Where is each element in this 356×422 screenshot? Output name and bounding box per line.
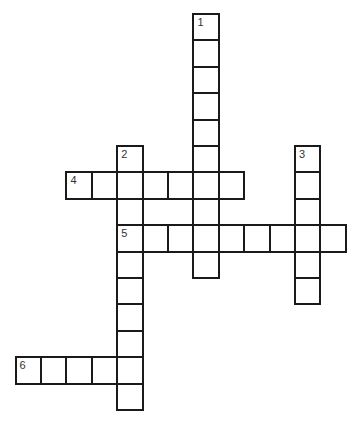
crossword-cell[interactable]: [167, 171, 194, 199]
crossword-cell[interactable]: [142, 224, 169, 252]
crossword-cell[interactable]: [192, 145, 219, 173]
crossword-cell[interactable]: [192, 39, 219, 67]
crossword-cell[interactable]: [218, 224, 245, 252]
crossword-cell[interactable]: [269, 224, 296, 252]
crossword-cell[interactable]: [142, 171, 169, 199]
crossword-cell[interactable]: 1: [192, 13, 219, 41]
crossword-cell[interactable]: [116, 277, 143, 305]
crossword-cell[interactable]: [116, 383, 143, 411]
crossword-cell[interactable]: [116, 303, 143, 331]
crossword-cell[interactable]: 3: [294, 145, 321, 173]
crossword-cell[interactable]: [40, 356, 67, 384]
clue-number: 4: [70, 174, 76, 186]
clue-number: 1: [197, 16, 203, 28]
crossword-cell[interactable]: [319, 224, 346, 252]
clue-number: 3: [299, 148, 305, 160]
clue-number: 2: [121, 148, 127, 160]
crossword-grid: 125346: [0, 0, 356, 422]
crossword-cell[interactable]: [116, 171, 143, 199]
crossword-cell[interactable]: [192, 198, 219, 226]
crossword-cell[interactable]: [192, 92, 219, 120]
crossword-cell[interactable]: [116, 330, 143, 358]
crossword-cell[interactable]: [218, 171, 245, 199]
crossword-cell[interactable]: [192, 66, 219, 94]
crossword-cell[interactable]: [192, 224, 219, 252]
crossword-cell[interactable]: [294, 251, 321, 279]
crossword-cell[interactable]: [243, 224, 270, 252]
crossword-cell[interactable]: 4: [65, 171, 92, 199]
crossword-cell[interactable]: 5: [116, 224, 143, 252]
crossword-cell[interactable]: 2: [116, 145, 143, 173]
crossword-cell[interactable]: [294, 224, 321, 252]
crossword-cell[interactable]: [116, 198, 143, 226]
clue-number: 5: [121, 227, 127, 239]
crossword-cell[interactable]: [192, 119, 219, 147]
crossword-cell[interactable]: [192, 251, 219, 279]
crossword-cell[interactable]: [294, 277, 321, 305]
crossword-cell[interactable]: 6: [15, 356, 42, 384]
crossword-cell[interactable]: [294, 171, 321, 199]
crossword-cell[interactable]: [91, 171, 118, 199]
crossword-cell[interactable]: [91, 356, 118, 384]
crossword-cell[interactable]: [65, 356, 92, 384]
crossword-cell[interactable]: [116, 356, 143, 384]
crossword-cell[interactable]: [116, 251, 143, 279]
crossword-cell[interactable]: [167, 224, 194, 252]
crossword-cell[interactable]: [192, 171, 219, 199]
clue-number: 6: [20, 359, 26, 371]
crossword-cell[interactable]: [294, 198, 321, 226]
